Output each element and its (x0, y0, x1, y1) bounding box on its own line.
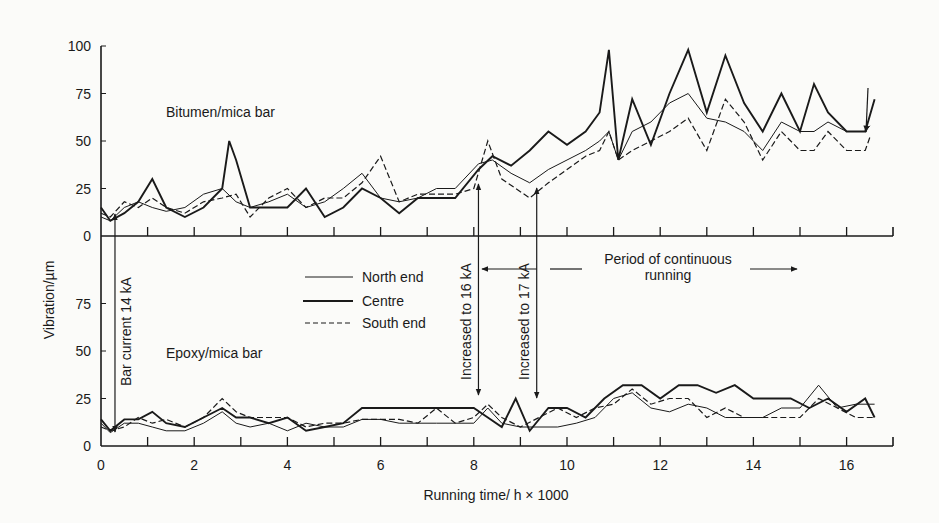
y-tick-label: 25 (75, 391, 91, 407)
lower-panel-series (101, 385, 875, 433)
x-tick-label: 16 (839, 457, 855, 473)
x-tick-label: 0 (97, 457, 105, 473)
y-tick-label: 75 (75, 86, 91, 102)
series-centre (101, 50, 875, 221)
y-tick-label: 0 (83, 438, 91, 454)
y-tick-label: 50 (75, 133, 91, 149)
x-tick-label: 12 (652, 457, 668, 473)
x-tick-label: 2 (190, 457, 198, 473)
x-axis-label: Running time/ h × 1000 (423, 487, 568, 503)
legend-north-label: North end (362, 269, 423, 285)
y-tick-label: 50 (75, 343, 91, 359)
y-axis-label: Vibration/µm (41, 261, 57, 340)
x-tick-label: 14 (746, 457, 762, 473)
increased-16ka-annotation: Increased to 16 kA (458, 263, 474, 380)
increased-17ka-annotation: Increased to 17 kA (516, 263, 532, 380)
upper-panel-series (101, 50, 875, 221)
y-tick-label: 75 (75, 296, 91, 312)
legend: North end Centre South end (303, 269, 426, 331)
annotations (115, 88, 868, 432)
vibration-chart: 025507510002550750246810121416 Bitumen/m… (0, 0, 939, 523)
y-tick-label: 0 (83, 228, 91, 244)
y-tick-label: 25 (75, 181, 91, 197)
period-annotation-line1: Period of continuous (604, 251, 732, 267)
period-annotation-line2: running (645, 267, 692, 283)
x-tick-label: 8 (470, 457, 478, 473)
legend-centre-label: Centre (362, 293, 404, 309)
x-tick-label: 6 (377, 457, 385, 473)
panel-title-bitumen: Bitumen/mica bar (166, 104, 275, 120)
panel-title-epoxy: Epoxy/mica bar (166, 345, 263, 361)
legend-south-label: South end (362, 315, 426, 331)
bar-current-annotation: Bar current 14 kA (118, 276, 134, 386)
y-tick-label: 100 (68, 38, 92, 54)
x-tick-label: 4 (284, 457, 292, 473)
series-north-end (101, 385, 875, 433)
x-tick-label: 10 (559, 457, 575, 473)
